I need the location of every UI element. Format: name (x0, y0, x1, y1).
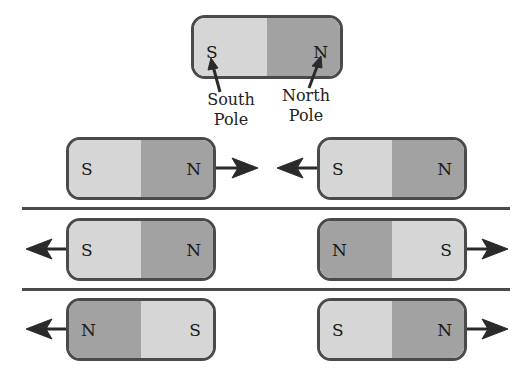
arrow-left-icon (277, 158, 317, 178)
arrow-right-icon (216, 158, 258, 178)
arrows-layer (0, 0, 531, 381)
arrow-right-icon (467, 239, 508, 259)
south-pointer-arrow-icon (208, 58, 220, 92)
arrow-left-icon (26, 239, 66, 259)
arrow-left-icon (26, 319, 66, 339)
arrow-right-icon (467, 319, 508, 339)
north-pointer-arrow-icon (309, 56, 322, 88)
